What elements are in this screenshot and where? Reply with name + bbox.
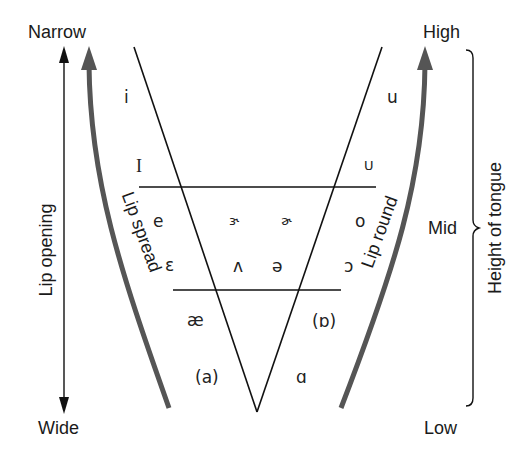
arrow-down-icon xyxy=(59,397,69,414)
vowel-I: I xyxy=(136,156,142,176)
vowel-diagram: Narrow Wide High Mid Low Lip opening Hei… xyxy=(0,0,528,456)
curve-arrow-up-icon xyxy=(81,46,97,70)
vowel-epsilon: ɛ xyxy=(165,255,174,275)
vowel-er-unstressed: ɚ xyxy=(281,213,292,228)
vowel-e: e xyxy=(153,211,163,231)
narrow-label: Narrow xyxy=(28,22,87,42)
low-label: Low xyxy=(424,418,458,438)
mid-label: Mid xyxy=(428,218,457,238)
vowel-wedge: ʌ xyxy=(233,256,243,276)
lip-opening-arrow xyxy=(59,46,69,414)
vowel-open-o: ɔ xyxy=(344,256,353,276)
vowel-script-a: ɑ xyxy=(296,367,307,387)
lip-spread-label: Lip spread xyxy=(118,189,166,275)
vowel-ae: æ xyxy=(187,310,204,330)
vowel-i: i xyxy=(124,87,129,107)
curve-arrow-up-icon xyxy=(417,46,433,70)
high-label: High xyxy=(423,22,460,42)
lip-opening-label: Lip opening xyxy=(36,203,56,296)
vowel-u: u xyxy=(387,87,398,107)
vowel-chart-svg: Narrow Wide High Mid Low Lip opening Hei… xyxy=(0,0,528,456)
vowel-turned-script-a: (ɒ) xyxy=(312,311,336,331)
vowel-schwa: ə xyxy=(272,256,282,276)
vowel-a: (a) xyxy=(195,367,219,387)
height-brace-icon xyxy=(466,50,479,406)
wide-label: Wide xyxy=(38,418,79,438)
vowel-o: o xyxy=(355,211,365,231)
vowel-er-stressed: ɝ xyxy=(229,213,240,228)
vowel-U: U xyxy=(364,158,374,173)
height-of-tongue-label: Height of tongue xyxy=(485,162,505,294)
arrow-up-icon xyxy=(59,46,69,63)
